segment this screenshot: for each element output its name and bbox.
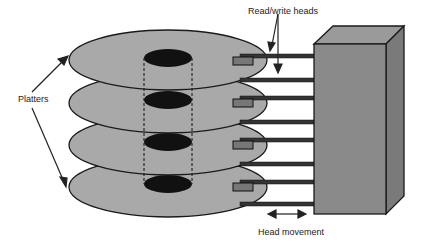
arrow-right-icon [298,210,306,218]
arrow-left-icon [268,210,276,218]
arrow-head-icon [274,64,282,73]
platters-arrows [32,56,68,187]
actuator-block [314,26,404,214]
heads-arrows [268,14,282,73]
arrow-head-icon [60,177,67,187]
hdd-diagram [0,0,423,250]
read-write-heads-label: Read/write heads [248,6,318,16]
head-movement-label: Head movement [258,227,324,237]
actuator-front [314,44,386,214]
spindle-hole [144,49,192,67]
arrow-head-icon [268,42,275,51]
spindle-hole [144,175,192,193]
spindle-hole [144,133,192,151]
arrow-head-icon [58,56,68,65]
spindle-hole [144,91,192,109]
platters-label: Platters [18,94,49,104]
actuator-side [386,26,404,214]
head-movement-arrow [268,210,306,218]
